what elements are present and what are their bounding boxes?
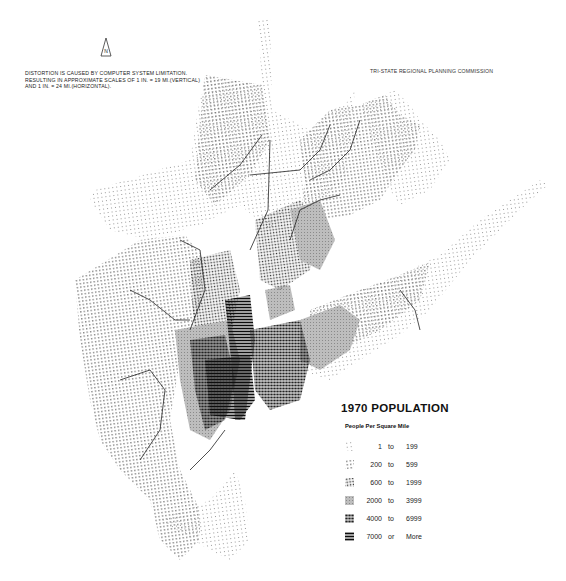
- svg-text:N: N: [104, 48, 108, 54]
- agency-credit: TRI-STATE REGIONAL PLANNING COMMISSION: [370, 68, 493, 74]
- note-line: DISTORTION IS CAUSED BY COMPUTER SYSTEM …: [25, 70, 200, 77]
- legend-row: 2000 to 3999: [345, 491, 485, 509]
- legend-row: 200 to 599: [345, 455, 485, 473]
- legend-title: 1970 POPULATION: [341, 402, 485, 414]
- note-line: AND 1 IN. = 24 MI.(HORIZONTAL).: [25, 83, 200, 90]
- legend-row: 600 to 1999: [345, 473, 485, 491]
- swatch-7000-more-icon: [345, 532, 354, 541]
- swatch-200-599-icon: [345, 460, 354, 469]
- swatch-600-1999-icon: [345, 478, 354, 487]
- swatch-4000-6999-icon: [345, 514, 354, 523]
- legend: 1970 POPULATION People Per Square Mile 1…: [345, 402, 485, 545]
- north-arrow-icon: N: [100, 37, 112, 57]
- swatch-1-199-icon: [345, 442, 354, 451]
- legend-row: 7000 or More: [345, 527, 485, 545]
- region-connecticut: [300, 90, 450, 220]
- legend-row: 1 to 199: [345, 437, 485, 455]
- legend-subtitle: People Per Square Mile: [345, 423, 485, 429]
- note-line: RESULTING IN APPROXIMATE SCALES OF 1 IN.…: [25, 77, 200, 84]
- legend-row: 4000 to 6999: [345, 509, 485, 527]
- distortion-note: DISTORTION IS CAUSED BY COMPUTER SYSTEM …: [25, 70, 200, 90]
- swatch-2000-3999-icon: [345, 496, 354, 505]
